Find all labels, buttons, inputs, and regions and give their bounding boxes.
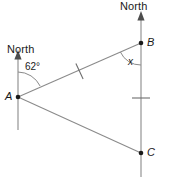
north-arrowhead-b-icon (137, 11, 144, 21)
north-label-left: North (7, 44, 34, 55)
segment-ac-line (18, 97, 141, 153)
point-b-label: B (147, 37, 154, 48)
point-c-label: C (147, 147, 155, 158)
point-a-marker (16, 95, 21, 100)
point-c-marker (139, 151, 144, 156)
north-label-right: North (120, 1, 147, 12)
angle-b-label: x (128, 57, 133, 67)
north-line-a (14, 50, 21, 130)
bearings-diagram: North North A B C 62° x (0, 0, 169, 177)
point-b-marker (139, 41, 144, 46)
segment-ac (18, 97, 141, 153)
angle-a-label: 62° (25, 62, 40, 72)
diagram-canvas (0, 0, 169, 177)
point-a-label: A (5, 91, 12, 102)
angle-a-arc-icon (18, 72, 40, 86)
